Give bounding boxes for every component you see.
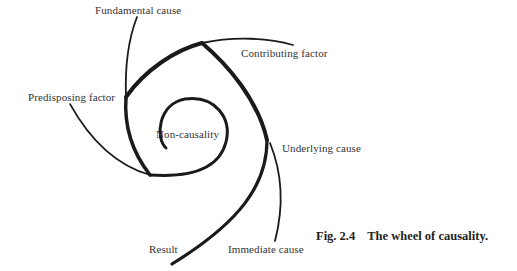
label-immediate-cause: Immediate cause: [228, 243, 304, 255]
predisposing-factor-line: [70, 104, 150, 175]
contributing-factor-line: [202, 39, 293, 45]
label-result: Result: [149, 243, 178, 255]
left-thick-arc: [126, 97, 150, 175]
top-thick-arc: [126, 43, 202, 97]
label-contributing-factor: Contributing factor: [241, 47, 328, 59]
immediate-cause-line: [270, 143, 280, 241]
label-non-causality: Non-causality: [156, 128, 219, 140]
figure-title: The wheel of causality.: [367, 229, 488, 243]
label-predisposing-factor: Predisposing factor: [28, 91, 115, 103]
label-underlying-cause: Underlying cause: [282, 142, 361, 154]
figure-caption: Fig. 2.4The wheel of causality.: [316, 229, 488, 244]
label-fundamental-cause: Fundamental cause: [95, 4, 181, 16]
figure-number: Fig. 2.4: [316, 229, 355, 243]
